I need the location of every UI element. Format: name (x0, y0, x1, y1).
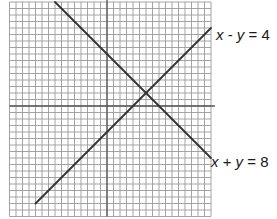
label-x-plus-y-equals-8: x + y = 8 (211, 154, 269, 169)
label-x-minus-y-equals-4: x - y = 4 (216, 27, 270, 42)
grid-lines (10, 2, 212, 217)
label-var-x: x (216, 26, 224, 43)
label-operator: + (219, 153, 236, 170)
label-rhs: = 8 (243, 153, 268, 170)
label-var-y: y (236, 153, 244, 170)
label-var-x: x (211, 153, 219, 170)
label-rhs: = 4 (244, 26, 269, 43)
label-operator: - (224, 26, 237, 43)
